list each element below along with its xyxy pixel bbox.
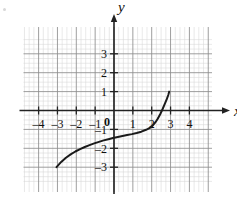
- y-axis-label: y: [116, 0, 125, 15]
- svg-text:3: 3: [101, 47, 107, 61]
- svg-text:–4: –4: [32, 117, 45, 131]
- svg-text:1: 1: [101, 85, 107, 99]
- svg-text:4: 4: [186, 117, 192, 131]
- svg-text:1: 1: [130, 117, 136, 131]
- svg-text:–3: –3: [50, 117, 63, 131]
- coordinate-plane: –4–3–2–11234–3–2–1123 x y 0: [0, 0, 237, 206]
- svg-text:3: 3: [168, 117, 174, 131]
- svg-text:2: 2: [101, 66, 107, 80]
- svg-text:–2: –2: [69, 117, 82, 131]
- svg-text:–3: –3: [94, 160, 107, 174]
- x-axis-label: x: [233, 103, 237, 119]
- origin-label: 0: [104, 115, 110, 129]
- graph-figure: –4–3–2–11234–3–2–1123 x y 0: [0, 0, 237, 206]
